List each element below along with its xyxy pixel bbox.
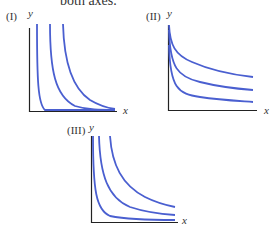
curve-3-3 [110,136,175,207]
plots-canvas [0,0,272,225]
panel-1 [29,24,117,112]
curve-2-1 [169,25,253,77]
curve-1-1 [37,24,115,110]
curve-1-2 [50,24,115,110]
curve-1-3 [63,24,115,109]
curve-3-2 [99,136,175,215]
curve-2-2 [169,30,253,90]
panel-3 [91,136,178,223]
panel-2 [168,25,257,111]
